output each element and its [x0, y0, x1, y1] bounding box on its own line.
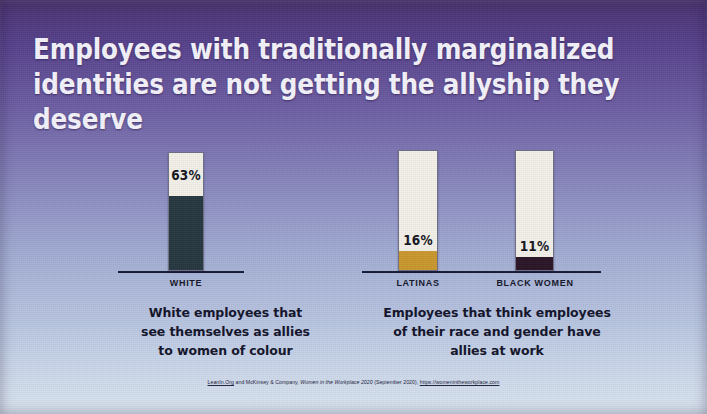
bar-fill-white [169, 196, 203, 270]
source-url-link[interactable]: https://womenintheworkplace.com [420, 379, 500, 385]
caption-right: Employees that think employees of their … [358, 303, 636, 360]
source-date-text: (September 2020), [373, 379, 420, 385]
bar-category-latinas: LATINAS [383, 278, 453, 288]
slide-canvas: Employees with traditionally marginalize… [0, 0, 707, 414]
source-mid-text: and McKinsey & Company, [234, 379, 300, 385]
axis-line-left [118, 271, 244, 273]
source-leanin-link[interactable]: LeanIn.Org [208, 379, 234, 385]
bar-fill-latinas [399, 251, 437, 270]
source-report-title: Women in the Workplace 2020 [300, 379, 372, 385]
bar-category-black-women: BLACK WOMEN [489, 278, 581, 288]
caption-left: White employees that see themselves as a… [103, 303, 348, 360]
bar-value-black-women: 11% [515, 238, 554, 254]
bar-value-latinas: 16% [398, 232, 438, 248]
source-citation: LeanIn.Org and McKinsey & Company, Women… [0, 379, 707, 385]
axis-line-right [362, 271, 601, 273]
bar-fill-black-women [516, 257, 553, 270]
bar-value-white: 63% [168, 167, 204, 183]
bar-latinas [398, 150, 438, 271]
bar-category-white: WHITE [148, 278, 224, 288]
chart-area: 63% WHITE White employees that see thems… [0, 0, 707, 414]
